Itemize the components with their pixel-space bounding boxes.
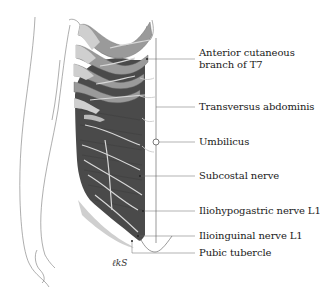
diagram-canvas: Anterior cutaneous branch of T7 Transver… — [0, 0, 333, 299]
label-umbilicus: Umbilicus — [199, 136, 249, 148]
umbilicus-marker — [153, 139, 159, 145]
label-transversus-abdominis: Transversus abdominis — [199, 101, 314, 113]
abdominal-wall-illustration — [0, 0, 333, 299]
label-pubic-tubercle: Pubic tubercle — [199, 247, 271, 259]
label-ilioinguinal-nerve: Ilioinguinal nerve L1 — [199, 230, 303, 242]
arm-outline — [20, 17, 70, 287]
label-line: branch of T7 — [199, 59, 295, 71]
label-line: Anterior cutaneous — [199, 47, 295, 59]
label-iliohypogastric-nerve: Iliohypogastric nerve L1 — [199, 205, 321, 217]
artist-signature: ℓkS — [112, 258, 127, 268]
label-anterior-cutaneous-t7: Anterior cutaneous branch of T7 — [199, 47, 295, 71]
label-subcostal-nerve: Subcostal nerve — [199, 170, 279, 182]
